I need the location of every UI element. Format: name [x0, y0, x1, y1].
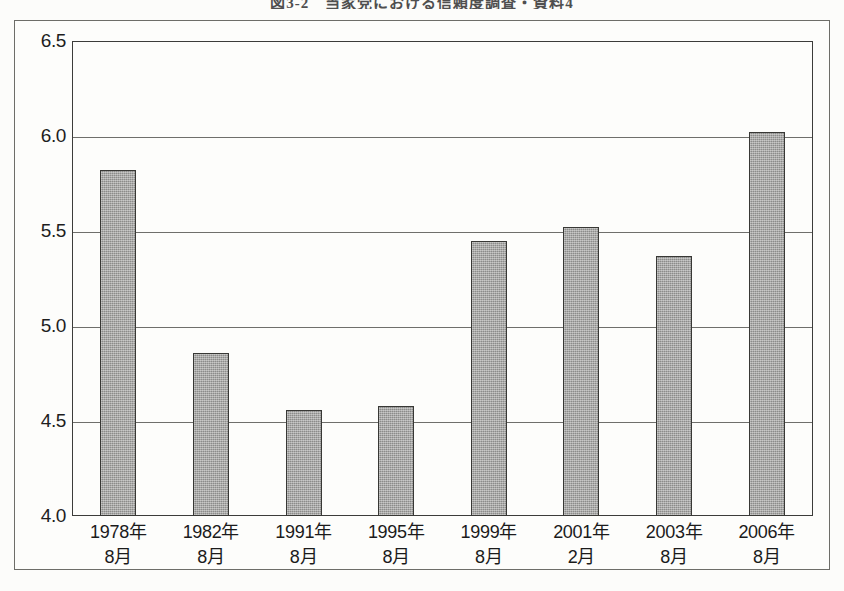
y-tick-label: 5.5 [20, 220, 66, 242]
x-tick-year: 2003年 [646, 522, 703, 542]
y-tick-label: 6.0 [20, 125, 66, 147]
x-tick-year: 2006年 [738, 522, 795, 542]
figure-caption: 図3-2 当家党における信頼度調査・資料4 [0, 0, 844, 9]
bar [471, 241, 507, 517]
bar-series [72, 41, 813, 516]
x-tick-month: 8月 [712, 545, 822, 570]
bar [749, 132, 785, 516]
x-axis: 1978年8月1982年8月1991年8月1995年8月1999年8月2001年… [72, 520, 813, 572]
x-tick-year: 1995年 [368, 522, 425, 542]
y-tick-label: 5.0 [20, 315, 66, 337]
bar [378, 406, 414, 516]
x-tick-year: 1999年 [461, 522, 518, 542]
y-tick-label: 6.5 [20, 30, 66, 52]
x-tick-year: 1978年 [90, 522, 147, 542]
y-tick-label: 4.0 [20, 505, 66, 527]
document-page: 図3-2 当家党における信頼度調査・資料4 4.04.55.05.56.06.5… [0, 0, 844, 591]
x-tick-year: 2001年 [553, 522, 610, 542]
bar [286, 410, 322, 516]
figure-frame: 4.04.55.05.56.06.5 1978年8月1982年8月1991年8月… [14, 20, 830, 570]
x-tick-year: 1991年 [275, 522, 332, 542]
bar [563, 227, 599, 516]
bar [193, 353, 229, 516]
bar [100, 170, 136, 516]
x-tick-label: 2006年8月 [712, 520, 822, 570]
y-tick-label: 4.5 [20, 410, 66, 432]
bar-chart: 4.04.55.05.56.06.5 1978年8月1982年8月1991年8月… [15, 21, 831, 571]
x-tick-year: 1982年 [183, 522, 240, 542]
y-axis: 4.04.55.05.56.06.5 [15, 41, 66, 516]
bar [656, 256, 692, 516]
